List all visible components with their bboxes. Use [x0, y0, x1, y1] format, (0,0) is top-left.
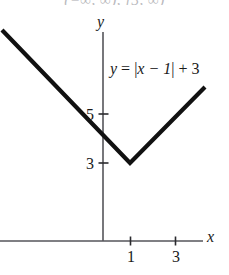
equation-equals: = [121, 60, 130, 77]
equation-constant: 3 [191, 60, 199, 77]
x-tick-label-1: 1 [124, 249, 138, 265]
absolute-value-graph-figure: (−∞, ∞), [3, ∞) y x 5 3 1 3 y = |x − 1| … [0, 0, 229, 275]
equation-bar-close: | [171, 60, 174, 77]
y-tick-label-3: 3 [80, 156, 94, 172]
y-axis-label: y [97, 14, 104, 30]
equation-annotation: y = |x − 1| + 3 [110, 59, 199, 79]
plot-canvas [0, 0, 229, 275]
equation-inner: x − 1 [137, 60, 171, 77]
y-tick-label-5: 5 [80, 107, 94, 123]
x-axis-label: x [207, 229, 214, 245]
equation-lhs: y [110, 60, 117, 77]
x-tick-label-3: 3 [169, 249, 183, 265]
equation-plus: + [178, 60, 187, 77]
